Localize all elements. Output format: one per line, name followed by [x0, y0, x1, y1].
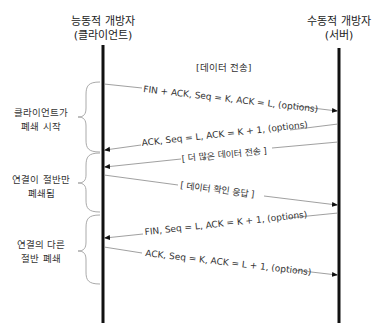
message-final-ack: ACK, Seq = K, ACK = L + 1, (options) — [104, 247, 337, 277]
message-fin-ack: FIN + ACK, Seq = K, ACK = L, (options) — [104, 84, 337, 114]
message-label: [ 데이터 확인 응답 ] — [180, 179, 255, 199]
message-data-ack: [ 데이터 확인 응답 ] — [104, 175, 337, 205]
message-more-data: [ 더 많은 데이터 전송 ] — [105, 142, 338, 167]
message-label: [ 더 많은 데이터 전송 ] — [181, 146, 267, 164]
message-label: FIN, Seq = L, ACK = K + 1, (options) — [144, 209, 308, 237]
message-label: ACK, Seq = L, ACK = K + 1, (options) — [141, 119, 308, 148]
brace-icon — [78, 215, 100, 284]
message-fin: FIN, Seq = L, ACK = K + 1, (options) — [105, 209, 338, 238]
message-label: FIN + ACK, Seq = K, ACK = L, (options) — [143, 84, 319, 114]
tcp-connection-termination-diagram: 능동적 개방자 (클라이언트) 수동적 개방자 (서버) [데이터 전송] 클라… — [0, 0, 376, 335]
brace-icon — [78, 82, 100, 152]
brace-icon — [78, 153, 100, 212]
message-label: ACK, Seq = K, ACK = L + 1, (options) — [145, 248, 312, 277]
diagram-canvas: FIN + ACK, Seq = K, ACK = L, (options) A… — [0, 0, 376, 335]
